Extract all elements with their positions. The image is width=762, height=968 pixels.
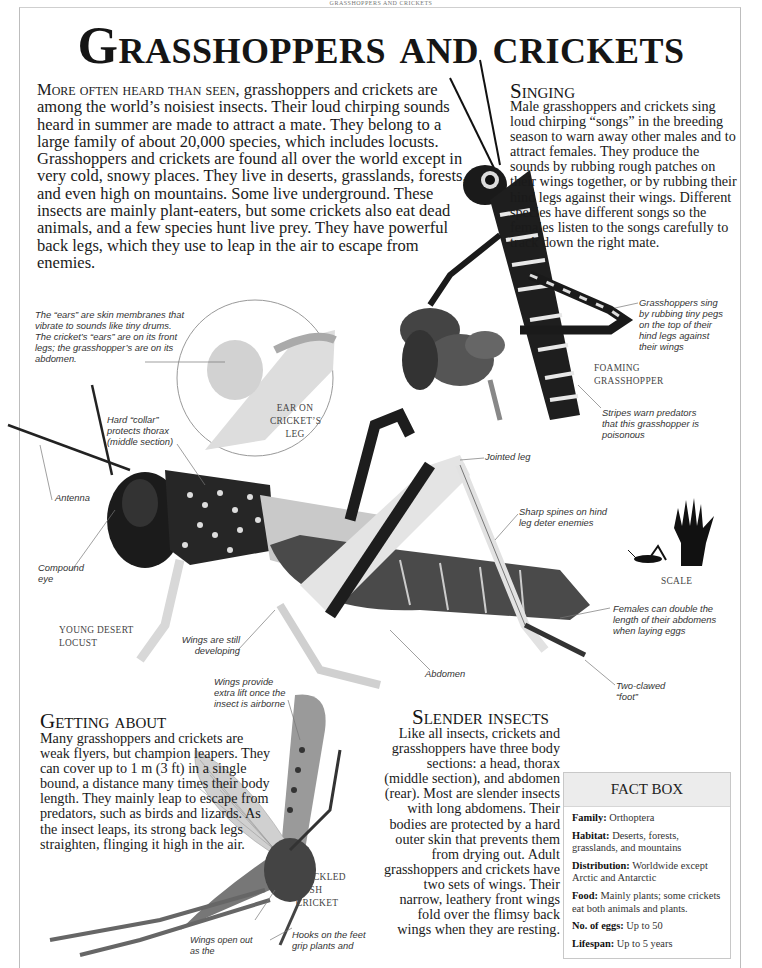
caption-sing-pegs: Grasshoppers sing by rubbing tiny pegs o…: [639, 297, 724, 352]
caption-compound-eye: Compound eye: [38, 562, 98, 584]
label-speckled-bush-cricket: Speckled bush cricket: [296, 871, 366, 910]
fact-food: Food: Mainly plants; some crickets eat b…: [564, 890, 730, 915]
label-foaming-grasshopper: Foaming grasshopper: [594, 362, 684, 388]
fact-key: Lifespan:: [572, 938, 614, 949]
caption-stripes: Stripes warn predators that this grassho…: [602, 407, 702, 440]
fact-key: Habitat:: [572, 830, 610, 841]
caption-collar: Hard “collar” protects thorax (middle se…: [107, 414, 177, 447]
label-young-desert-locust: Young desert locust: [59, 624, 139, 650]
getting-about-paragraph: Many grasshoppers and crickets are weak …: [40, 731, 275, 852]
fact-habitat: Habitat: Deserts, forests, grasslands, a…: [564, 830, 730, 855]
fact-value: Up to 50: [626, 920, 662, 931]
caption-wings-open: Wings open out as the: [190, 935, 255, 957]
fact-lifespan: Lifespan: Up to 5 years: [564, 938, 730, 951]
fact-eggs: No. of eggs: Up to 50: [564, 920, 730, 933]
fact-box-title: FACT BOX: [564, 773, 730, 807]
fact-key: Family:: [572, 812, 607, 823]
caption-foot: Two-clawed “foot”: [616, 680, 676, 702]
slender-insects-paragraph: Like all insects, crickets and grasshopp…: [382, 726, 560, 937]
caption-females: Females can double the length of their a…: [613, 603, 723, 636]
caption-jointed-leg: Jointed leg: [485, 451, 530, 462]
caption-ears: The “ears” are skin membranes that vibra…: [35, 309, 185, 364]
singing-paragraph: Male grasshoppers and crickets sing loud…: [510, 99, 742, 250]
fact-key: Distribution:: [572, 860, 630, 871]
fact-family: Family: Orthoptera: [564, 812, 730, 825]
caption-antenna: Antenna: [55, 492, 90, 503]
fact-box: FACT BOX Family: Orthoptera Habitat: Des…: [563, 772, 731, 959]
label-scale: Scale: [661, 575, 692, 588]
getting-about-heading: Getting about: [40, 710, 166, 732]
fact-key: Food:: [572, 890, 598, 901]
caption-wings-lift: Wings provide extra lift once the insect…: [214, 676, 294, 709]
caption-wings-developing: Wings are still developing: [175, 634, 240, 656]
caption-spines: Sharp spines on hind leg deter enemies: [519, 506, 614, 528]
caption-abdomen: Abdomen: [425, 668, 465, 679]
caption-hooks: Hooks on the feet grip plants and: [292, 929, 377, 951]
label-ear-inset: Ear on cricket’s leg: [270, 402, 320, 441]
fact-value: Up to 5 years: [617, 938, 673, 949]
fact-key: No. of eggs:: [572, 920, 624, 931]
fact-value: Orthoptera: [609, 812, 654, 823]
fact-distribution: Distribution: Worldwide except Arctic an…: [564, 860, 730, 885]
